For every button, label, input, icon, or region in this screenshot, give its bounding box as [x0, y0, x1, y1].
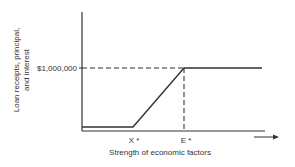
y-axis-label-line2: and interest — [22, 48, 31, 91]
x-tick-label-e-star: E * — [181, 136, 192, 145]
x-tick-label-x-star: X * — [129, 136, 140, 145]
loan-receipts-line — [82, 68, 262, 127]
arrow-right-icon — [254, 135, 279, 140]
y-tick-label-1m: $1,000,000 — [37, 64, 78, 73]
x-axis-label: Strength of economic factors — [109, 148, 211, 157]
loan-receipts-chart: Loan receipts, principal, and interest $… — [0, 0, 295, 167]
y-axis-label-line1: Loan receipts, principal, — [12, 28, 21, 113]
